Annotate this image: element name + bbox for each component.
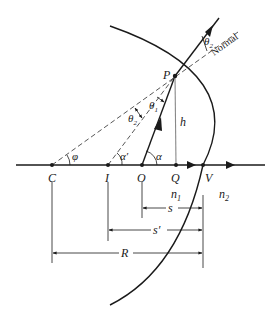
label-theta1: θ1: [149, 99, 158, 114]
label-P: P: [162, 68, 171, 82]
label-R: R: [120, 246, 129, 260]
point-Q: [174, 163, 178, 167]
label-theta2: θ2: [128, 112, 137, 127]
label-s: s: [168, 201, 173, 215]
refraction-diagram: C I O Q V P n1 n2 φ α′ α θ1 θ2 θ2 h s s′…: [0, 0, 277, 318]
label-normal: Normal: [209, 31, 240, 58]
image-ray-extension: [108, 76, 175, 165]
point-V: [201, 163, 205, 167]
angle-phi-arc: [67, 155, 70, 165]
label-O: O: [137, 171, 146, 185]
height-line: [175, 76, 176, 165]
label-s-prime: s′: [153, 223, 161, 237]
label-phi: φ: [72, 150, 78, 162]
label-alpha: α: [156, 150, 162, 162]
label-V: V: [205, 171, 214, 185]
axis-arrow-1: [187, 161, 196, 169]
label-Q: Q: [171, 171, 180, 185]
label-I: I: [104, 171, 110, 185]
angle-theta1-arc: [157, 97, 164, 102]
incident-ray-arrow: [154, 117, 162, 131]
label-h: h: [180, 115, 186, 129]
axis-arrow-2: [226, 161, 235, 169]
angle-theta2-arc: [135, 108, 142, 118]
label-C: C: [48, 171, 57, 185]
label-n2: n2: [219, 187, 229, 203]
point-P: [173, 74, 177, 78]
label-alpha-prime: α′: [120, 150, 129, 162]
point-I: [106, 163, 110, 167]
point-C: [50, 163, 54, 167]
point-O: [140, 163, 144, 167]
